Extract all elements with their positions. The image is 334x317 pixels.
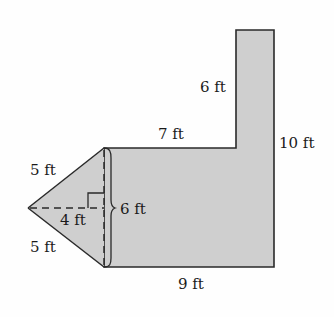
label-tall-height: 6 ft	[200, 78, 226, 96]
label-triangle-height: 4 ft	[60, 211, 86, 229]
label-right-height: 10 ft	[279, 134, 314, 152]
l-shaped-region	[104, 30, 274, 267]
label-step-width: 7 ft	[158, 125, 184, 143]
label-triangle-base: 6 ft	[120, 200, 146, 218]
label-triangle-upper-side: 5 ft	[30, 161, 56, 179]
label-triangle-lower-side: 5 ft	[30, 238, 56, 256]
label-bottom-width: 9 ft	[178, 275, 204, 293]
diagram-canvas: 6 ft 7 ft 10 ft 5 ft 6 ft 4 ft 5 ft 9 ft	[0, 0, 334, 317]
composite-figure-diagram: 6 ft 7 ft 10 ft 5 ft 6 ft 4 ft 5 ft 9 ft	[0, 0, 334, 317]
